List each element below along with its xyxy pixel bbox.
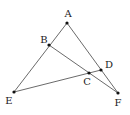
- point-e: [12, 90, 15, 93]
- label-b: B: [40, 34, 47, 45]
- geometry-diagram: A B C D E F: [0, 0, 130, 115]
- point-d: [99, 68, 102, 71]
- label-c: C: [83, 76, 91, 87]
- segment-AF: [67, 23, 118, 93]
- label-d: D: [105, 59, 113, 70]
- label-e: E: [5, 95, 12, 106]
- label-f: F: [115, 97, 122, 108]
- label-a: A: [63, 8, 72, 19]
- point-b: [47, 43, 50, 46]
- point-f: [116, 91, 119, 94]
- point-a: [65, 21, 68, 24]
- point-c: [87, 71, 90, 74]
